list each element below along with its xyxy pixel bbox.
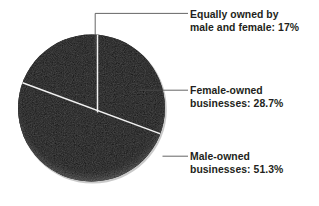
slice-label-male-owned: Male-owned businesses: 51.3% [190,150,283,176]
slice-label-male-line1: Male-owned [190,150,283,163]
pie-chart-figure: Equally owned by male and female: 17% Fe… [0,0,319,206]
slice-label-equally-line1: Equally owned by [190,8,299,21]
slice-label-female-line1: Female-owned [190,84,283,97]
slice-label-equally-line2: male and female: 17% [190,21,299,34]
slice-label-female-owned: Female-owned businesses: 28.7% [190,84,283,110]
slice-label-equally-owned: Equally owned by male and female: 17% [190,8,299,34]
slice-label-female-line2: businesses: 28.7% [190,97,283,110]
slice-label-male-line2: businesses: 51.3% [190,163,283,176]
